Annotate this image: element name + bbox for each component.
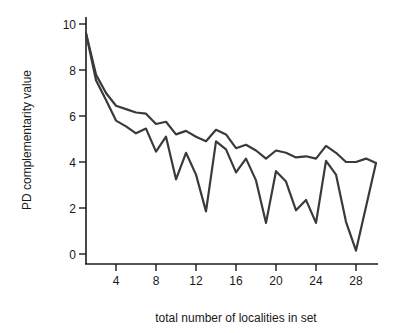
y-tick-label: 10 (63, 18, 77, 32)
x-ticks: 481216202428 (113, 264, 363, 288)
y-ticks: 0246810 (63, 18, 86, 262)
y-tick-label: 4 (69, 156, 76, 170)
x-tick-label: 28 (349, 274, 363, 288)
plot-series (86, 33, 376, 250)
x-tick-label: 16 (229, 274, 243, 288)
y-axis: 0246810 PD complementarity value (20, 17, 86, 264)
x-tick-label: 4 (113, 274, 120, 288)
line-chart: 0246810 PD complementarity value 4812162… (0, 0, 396, 333)
x-axis: 481216202428 total number of localities … (85, 264, 378, 325)
x-tick-label: 20 (269, 274, 283, 288)
series-line-upper (86, 33, 376, 163)
y-tick-label: 6 (69, 110, 76, 124)
y-tick-label: 8 (69, 64, 76, 78)
x-tick-label: 8 (153, 274, 160, 288)
x-tick-label: 12 (189, 274, 203, 288)
y-axis-title: PD complementarity value (20, 70, 34, 210)
x-tick-label: 24 (309, 274, 323, 288)
y-tick-label: 0 (69, 248, 76, 262)
x-axis-title: total number of localities in set (155, 311, 317, 325)
y-tick-label: 2 (69, 202, 76, 216)
